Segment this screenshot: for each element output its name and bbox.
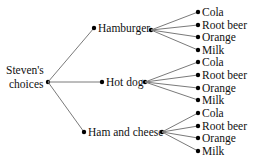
leaf-label: Milk [202,44,225,56]
leaf-label: Root beer [202,120,247,132]
sandwich-node-hamcheese: Ham and cheese Cola Root beer Orange Mil… [82,107,247,157]
sandwich-node-hotdog: Hot dog Cola Root beer Orange Milk [100,56,247,106]
leaf-dot [196,86,200,90]
root-label-line2: choices [9,78,44,90]
leaf-dot [196,23,200,27]
tree-diagram: Steven's choices Hamburger Cola Root bee… [0,0,253,167]
root-label-line1: Steven's [6,64,44,76]
leaf-label: Cola [202,107,224,119]
leaf-dot [196,10,200,14]
leaf-label: Cola [202,6,224,18]
leaf-label: Root beer [202,19,247,31]
hotdog-label: Hot dog [106,76,144,89]
hotdog-dot [100,80,104,84]
leaf-dot [196,60,200,64]
leaf-label: Milk [202,145,225,157]
edge-root-hamburger [48,28,94,82]
root-node: Steven's choices [6,64,50,90]
hamburger-dot [92,26,96,30]
edge-root-hamcheese [48,82,84,132]
leaf-dot [196,111,200,115]
leaf-label: Root beer [202,69,247,81]
leaf-dot [196,124,200,128]
leaf-label: Milk [202,94,225,106]
leaf-dot [196,136,200,140]
hamcheese-dot [82,130,86,134]
hamburger-label: Hamburger [98,22,150,35]
leaf-dot [196,149,200,153]
hamcheese-label: Ham and cheese [88,126,163,138]
leaf-dot [196,48,200,52]
leaf-dot [196,73,200,77]
sandwich-node-hamburger: Hamburger Cola Root beer Orange Milk [92,6,247,56]
leaf-label: Orange [202,132,236,145]
leaf-label: Cola [202,56,224,68]
leaf-label: Orange [202,31,236,44]
leaf-dot [196,35,200,39]
leaf-dot [196,98,200,102]
